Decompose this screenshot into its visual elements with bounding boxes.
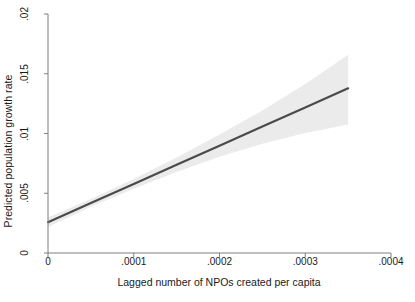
y-tick-label: .01 xyxy=(19,117,29,151)
x-tick-label: .0003 xyxy=(283,256,327,267)
chart-figure: 0.005.01.015.02 0.0001.0002.0003.0004 Pr… xyxy=(0,0,415,302)
x-tick-label: .0004 xyxy=(369,256,413,267)
x-tick-label: .0002 xyxy=(198,256,242,267)
y-axis-title: Predicted population growth rate xyxy=(0,0,16,302)
axis-lines xyxy=(48,14,391,253)
y-tick-label: .005 xyxy=(19,176,29,210)
y-tick-label: .02 xyxy=(19,0,29,31)
x-tick-label: .0001 xyxy=(112,256,156,267)
prediction-line xyxy=(48,88,348,222)
x-tick-label: 0 xyxy=(26,256,70,267)
y-tick-label: .015 xyxy=(19,57,29,91)
x-axis-title: Lagged number of NPOs created per capita xyxy=(48,276,390,288)
y-axis-tick-marks xyxy=(44,14,48,253)
